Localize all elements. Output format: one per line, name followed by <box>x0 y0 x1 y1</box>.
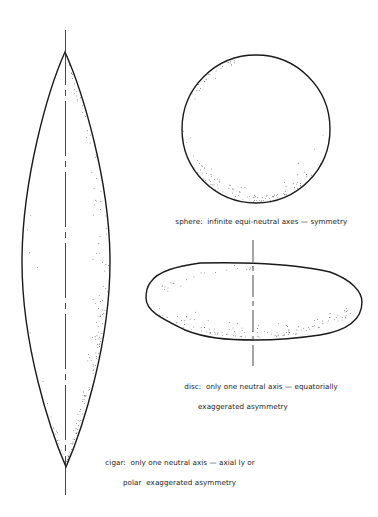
sphere-caption-line1: sphere: infinite equi-neutral axes — sym… <box>175 217 347 226</box>
disc-caption: disc: only one neutral axis — equatorial… <box>175 372 338 432</box>
cigar-outline <box>22 52 110 467</box>
disc-shape <box>146 240 362 366</box>
sphere-caption: sphere: infinite equi-neutral axes — sym… <box>166 207 347 237</box>
disc-caption-line1: disc: only one neutral axis — equatorial… <box>184 382 337 391</box>
cigar-stipple <box>27 56 109 464</box>
cigar-caption: cigar: only one neutral axis — axial ly … <box>96 448 255 508</box>
sphere-outline <box>182 55 330 203</box>
disc-stipple <box>159 265 351 338</box>
cigar-caption-line1: cigar: only one neutral axis — axial ly … <box>105 458 254 467</box>
figure-canvas: sphere: infinite equi-neutral axes — sym… <box>0 0 378 517</box>
shape-diagram <box>0 0 378 517</box>
disc-caption-line2: exaggerated asymmetry <box>175 402 338 412</box>
sphere-shape <box>182 55 330 203</box>
cigar-caption-line2: polar exaggerated asymmetry <box>96 478 255 488</box>
sphere-stipple <box>183 60 323 202</box>
disc-outline <box>146 263 362 340</box>
cigar-shape <box>22 30 110 495</box>
